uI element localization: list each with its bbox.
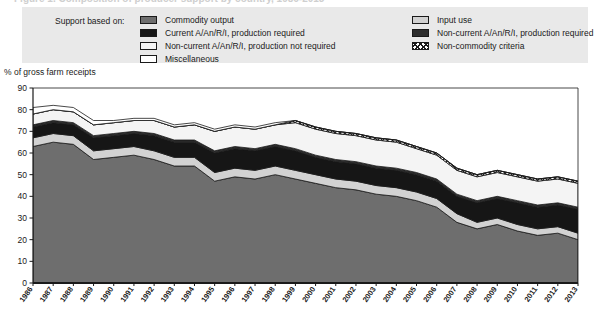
legend-item-non-current-arin-not-required: Non-current A/An/R/I, production not req… bbox=[140, 40, 336, 53]
x-tick-label: 2003 bbox=[361, 285, 378, 304]
legend-item-current-arin-required: Current A/An/R/I, production required bbox=[140, 27, 336, 40]
figure-root: Figure 1. Composition of producer suppor… bbox=[0, 0, 596, 312]
legend-item-non-commodity-criteria: Non-commodity criteria bbox=[412, 40, 593, 53]
x-tick-label: 1986 bbox=[18, 285, 35, 304]
legend-item-input-use: Input use bbox=[412, 14, 593, 27]
x-tick-label: 2007 bbox=[441, 285, 458, 304]
x-tick-label: 1993 bbox=[159, 285, 176, 304]
non-current-arin-not-required-swatch bbox=[140, 42, 157, 50]
legend-intro-label: Support based on: bbox=[55, 16, 124, 26]
x-tick-label: 1989 bbox=[78, 285, 95, 304]
legend-item-label: Miscellaneous bbox=[165, 55, 219, 64]
x-tick-label: 1992 bbox=[139, 285, 156, 304]
x-tick-label: 1999 bbox=[280, 285, 297, 304]
legend-column-right: Input use Non-current A/An/R/I, producti… bbox=[412, 14, 593, 53]
y-tick-label: 40 bbox=[18, 191, 28, 201]
legend-item-commodity-output: Commodity output bbox=[140, 14, 336, 27]
y-tick-label: 60 bbox=[18, 148, 28, 158]
non-commodity-criteria-swatch bbox=[412, 42, 429, 50]
chart-plot-area: 0102030405060708090 19861987198819891990… bbox=[0, 78, 596, 312]
y-axis-ticks: 0102030405060708090 bbox=[18, 83, 28, 288]
chart-legend: Support based on: Commodity output Curre… bbox=[22, 7, 588, 63]
x-tick-label: 2002 bbox=[341, 285, 358, 304]
x-tick-label: 2012 bbox=[542, 285, 559, 304]
stacked-area-chart: 0102030405060708090 19861987198819891990… bbox=[0, 78, 596, 312]
cutoff-title-strip: Figure 1. Composition of producer suppor… bbox=[0, 0, 596, 7]
commodity-output-swatch bbox=[140, 16, 157, 24]
legend-item-miscellaneous: Miscellaneous bbox=[140, 53, 336, 66]
legend-item-label: Current A/An/R/I, production required bbox=[165, 29, 305, 38]
x-tick-label: 1987 bbox=[38, 285, 55, 304]
x-tick-label: 2000 bbox=[300, 285, 317, 304]
x-tick-label: 1997 bbox=[240, 285, 257, 304]
figure-title: Figure 1. Composition of producer suppor… bbox=[14, 0, 324, 4]
y-tick-label: 10 bbox=[18, 256, 28, 266]
legend-item-label: Non-commodity criteria bbox=[437, 42, 524, 51]
non-current-arin-required-swatch bbox=[412, 29, 429, 37]
x-tick-label: 2011 bbox=[522, 284, 539, 303]
y-tick-label: 50 bbox=[18, 170, 28, 180]
legend-item-non-current-arin-required: Non-current A/An/R/I, production require… bbox=[412, 27, 593, 40]
x-axis-ticks: 1986198719881989199019911992199319941995… bbox=[18, 284, 580, 304]
x-tick-label: 2005 bbox=[401, 284, 419, 304]
x-tick-label: 1994 bbox=[179, 284, 197, 304]
x-tick-label: 1990 bbox=[98, 285, 115, 304]
x-tick-label: 2009 bbox=[482, 285, 499, 304]
x-tick-label: 1995 bbox=[199, 284, 217, 304]
legend-item-label: Non-current A/An/R/I, production not req… bbox=[165, 42, 336, 51]
x-tick-label: 2001 bbox=[320, 284, 338, 304]
y-tick-label: 70 bbox=[18, 126, 28, 136]
y-tick-label: 80 bbox=[18, 105, 28, 115]
y-tick-label: 30 bbox=[18, 213, 28, 223]
y-axis-caption: % of gross farm receipts bbox=[4, 67, 96, 77]
legend-item-label: Input use bbox=[437, 16, 472, 25]
x-tick-label: 2008 bbox=[462, 285, 479, 304]
x-tick-label: 1996 bbox=[219, 285, 236, 304]
y-tick-label: 20 bbox=[18, 235, 28, 245]
x-tick-label: 2004 bbox=[381, 284, 399, 304]
x-tick-label: 1988 bbox=[58, 285, 75, 304]
x-tick-label: 2006 bbox=[421, 285, 438, 304]
input-use-swatch bbox=[412, 16, 429, 24]
miscellaneous-swatch bbox=[140, 55, 157, 63]
x-tick-label: 1998 bbox=[260, 285, 277, 304]
x-tick-label: 2013 bbox=[563, 285, 580, 304]
legend-item-label: Commodity output bbox=[165, 16, 234, 25]
legend-column-left: Commodity output Current A/An/R/I, produ… bbox=[140, 14, 336, 66]
y-tick-label: 90 bbox=[18, 83, 28, 93]
chart-series-layers bbox=[33, 105, 578, 283]
x-tick-label: 1991 bbox=[118, 284, 136, 304]
current-arin-required-swatch bbox=[140, 29, 157, 37]
x-tick-label: 2010 bbox=[502, 285, 519, 304]
legend-item-label: Non-current A/An/R/I, production require… bbox=[437, 29, 593, 38]
